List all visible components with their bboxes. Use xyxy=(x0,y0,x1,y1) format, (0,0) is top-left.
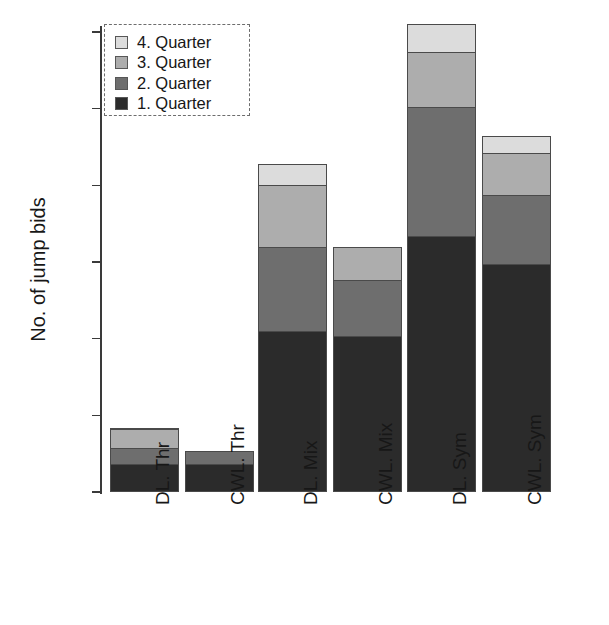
y-axis-tick xyxy=(92,338,101,340)
x-axis-label: CWL. Sym xyxy=(525,375,544,505)
bar-segment[interactable] xyxy=(407,24,476,52)
bar-segment[interactable] xyxy=(333,247,402,281)
bar-segment[interactable] xyxy=(258,185,327,246)
legend-item[interactable]: 1. Quarter xyxy=(115,94,249,114)
y-axis-tick xyxy=(92,31,101,33)
bar-segment[interactable] xyxy=(482,195,551,264)
bar-segment[interactable] xyxy=(258,247,327,331)
legend-swatch-icon xyxy=(115,77,128,90)
legend-label: 3. Quarter xyxy=(137,54,211,71)
bar-segment[interactable] xyxy=(407,107,476,236)
legend-item[interactable]: 2. Quarter xyxy=(115,73,249,93)
legend-swatch-icon xyxy=(115,36,128,49)
y-axis-title: No. of jump bids xyxy=(27,170,50,370)
x-axis-label: DL. Sym xyxy=(450,375,469,505)
bar-segment[interactable] xyxy=(258,164,327,185)
y-axis-tick xyxy=(92,185,101,187)
legend-label: 1. Quarter xyxy=(137,95,211,112)
x-axis-label: DL. Thr xyxy=(153,375,172,505)
legend-item[interactable]: 3. Quarter xyxy=(115,53,249,73)
x-axis-label: CWL. Thr xyxy=(228,375,247,505)
legend-swatch-icon xyxy=(115,56,128,69)
bar-segment[interactable] xyxy=(482,153,551,194)
y-axis-tick xyxy=(92,415,101,417)
y-axis-tick xyxy=(92,261,101,263)
bar-segment[interactable] xyxy=(407,52,476,107)
legend-swatch-icon xyxy=(115,97,128,110)
chart-canvas: No. of jump bids 051015202530 DL. ThrCWL… xyxy=(0,0,609,625)
bar-segment[interactable] xyxy=(482,136,551,153)
bar-segment[interactable] xyxy=(333,280,402,335)
x-axis-label: CWL. Mix xyxy=(376,375,395,505)
x-axis-label: DL. Mix xyxy=(301,375,320,505)
y-axis-tick xyxy=(92,108,101,110)
legend-label: 2. Quarter xyxy=(137,75,211,92)
legend-item[interactable]: 4. Quarter xyxy=(115,32,249,52)
legend-label: 4. Quarter xyxy=(137,34,211,51)
y-axis-tick xyxy=(92,491,101,493)
chart-legend: 4. Quarter3. Quarter2. Quarter1. Quarter xyxy=(104,24,250,116)
